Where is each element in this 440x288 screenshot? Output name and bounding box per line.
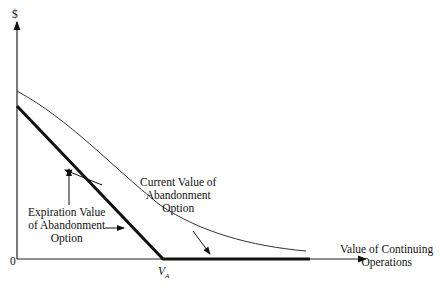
current-label-line1: Current Value of [140, 176, 216, 189]
x-axis-label: Value of Continuing Operations [340, 243, 433, 269]
y-axis-label: $ [12, 8, 18, 21]
current-value-label: Current Value of Abandonment Option [140, 176, 216, 215]
expiration-label-line1: Expiration Value [28, 206, 105, 219]
x-axis-label-line1: Value of Continuing [340, 243, 433, 256]
current-value-arrow-2 [193, 231, 210, 254]
expiration-label-line2: of Abandonment [28, 219, 105, 232]
expiration-value-label: Expiration Value of Abandonment Option [28, 206, 105, 245]
origin-label: 0 [10, 255, 16, 268]
x-axis-label-line2: Operations [340, 256, 433, 269]
expiration-label-line3: Option [28, 232, 105, 245]
current-label-line3: Option [140, 202, 216, 215]
vA-label: VA [158, 265, 169, 283]
current-value-arrow [65, 170, 102, 185]
current-label-line2: Abandonment [140, 189, 216, 202]
vA-main: V [158, 265, 165, 277]
vA-sub: A [165, 272, 169, 280]
